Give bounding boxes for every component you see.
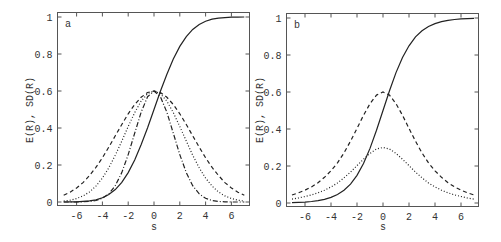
- x-tick-label: 6: [458, 212, 464, 223]
- curve-solid: [292, 18, 474, 202]
- panel-label: b: [294, 20, 300, 31]
- x-tick-label: 2: [406, 212, 412, 223]
- y-tick-label: 0.4: [263, 125, 281, 136]
- y-tick-label: 0: [275, 199, 281, 210]
- plot-curves: [292, 18, 474, 202]
- curve-dashed: [64, 91, 245, 195]
- y-tick-label: 0.8: [34, 50, 52, 61]
- x-tick-label: -4: [325, 212, 337, 223]
- curve-dashdot: [64, 91, 245, 202]
- y-tick-label: 0.8: [263, 51, 281, 62]
- x-tick-label: -2: [351, 212, 363, 223]
- y-tick-label: 0.6: [263, 88, 281, 99]
- plot-frame: [287, 14, 479, 207]
- x-axis-label: s: [380, 222, 386, 233]
- y-tick-label: 0.2: [263, 162, 281, 173]
- plot-curves: [64, 17, 245, 202]
- x-tick-label: 4: [203, 211, 209, 222]
- plot-frame: [58, 13, 250, 206]
- x-tick-label: 2: [177, 211, 183, 222]
- panel-label: a: [65, 19, 71, 30]
- y-tick-label: 0: [46, 198, 52, 209]
- chart-panel-a: E(R), SD(R) s -6-4-2024600.20.40.60.81 a: [0, 0, 250, 242]
- x-tick-label: -2: [122, 211, 134, 222]
- curve-dotted: [292, 148, 474, 200]
- chart-panel-b: E(R), SD(R) s -6-4-2024600.20.40.60.81 b: [229, 0, 479, 242]
- axis-ticks: -6-4-2024600.20.40.60.81: [34, 13, 249, 222]
- curve-dotted: [64, 91, 245, 201]
- y-tick-label: 0.6: [34, 87, 52, 98]
- x-axis-label: s: [151, 222, 157, 233]
- x-tick-label: 0: [380, 212, 386, 223]
- x-tick-label: -4: [96, 211, 108, 222]
- y-tick-label: 1: [46, 13, 52, 24]
- axis-ticks: -6-4-2024600.20.40.60.81: [263, 14, 478, 223]
- chart-b-svg: E(R), SD(R) s -6-4-2024600.20.40.60.81 b: [229, 0, 501, 242]
- y-tick-label: 0.2: [34, 161, 52, 172]
- curve-dashed: [292, 92, 474, 195]
- x-tick-label: 0: [151, 211, 157, 222]
- chart-a-svg: E(R), SD(R) s -6-4-2024600.20.40.60.81 a: [0, 0, 250, 242]
- x-tick-label: -6: [71, 211, 83, 222]
- x-tick-label: 4: [432, 212, 438, 223]
- y-tick-label: 1: [275, 14, 281, 25]
- y-tick-label: 0.4: [34, 124, 52, 135]
- x-tick-label: -6: [299, 212, 311, 223]
